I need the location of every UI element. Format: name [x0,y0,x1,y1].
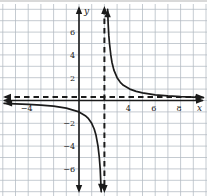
y-tick-label: 4 [70,51,75,60]
graph-panel: −4468642−2−4−6yx [0,0,207,196]
y-axis-top-arrowhead [76,6,82,14]
y-tick-label: −4 [63,142,75,151]
x-tick-label: 4 [126,104,131,113]
x-tick-label: −4 [21,104,33,113]
y-tick-label: −6 [63,165,75,174]
x-axis-label: x [197,103,202,113]
curve-left-branch [4,103,101,191]
y-tick-label: 6 [70,28,75,37]
x-tick-label: 6 [151,104,156,113]
screenshot-top-edge [0,0,207,2]
y-tick-label: 2 [70,74,75,83]
x-tick-label: 8 [177,104,182,113]
y-tick-label: −2 [63,119,75,128]
function-graph: −4468642−2−4−6yx [0,0,207,196]
y-axis-label: y [83,6,90,16]
